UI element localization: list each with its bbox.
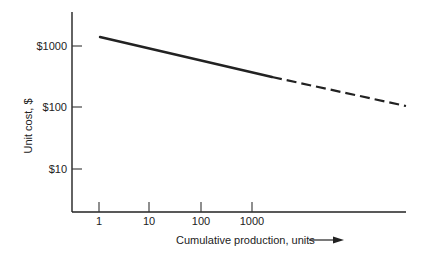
- x-ticks: 1 10 100 1000: [96, 202, 264, 227]
- arrow-head-icon: [333, 237, 344, 244]
- x-tick-label-1000: 1000: [240, 215, 264, 227]
- experience-curve-chart: $1000 $100 $10 1 10 100 1000 Cumulative …: [0, 0, 426, 255]
- x-tick-label-100: 100: [192, 215, 210, 227]
- y-axis-label: Unit cost, $: [22, 98, 34, 153]
- x-axis-label: Cumulative production, units: [176, 234, 315, 246]
- y-tick-label-1000: $1000: [36, 40, 67, 52]
- y-tick-label-100: $100: [43, 101, 67, 113]
- x-tick-label-10: 10: [143, 215, 155, 227]
- x-tick-label-1: 1: [96, 215, 102, 227]
- y-ticks: $1000 $100 $10: [36, 40, 82, 175]
- experience-curve-solid: [100, 37, 272, 77]
- y-tick-label-10: $10: [49, 163, 67, 175]
- experience-curve-dashed: [272, 77, 406, 106]
